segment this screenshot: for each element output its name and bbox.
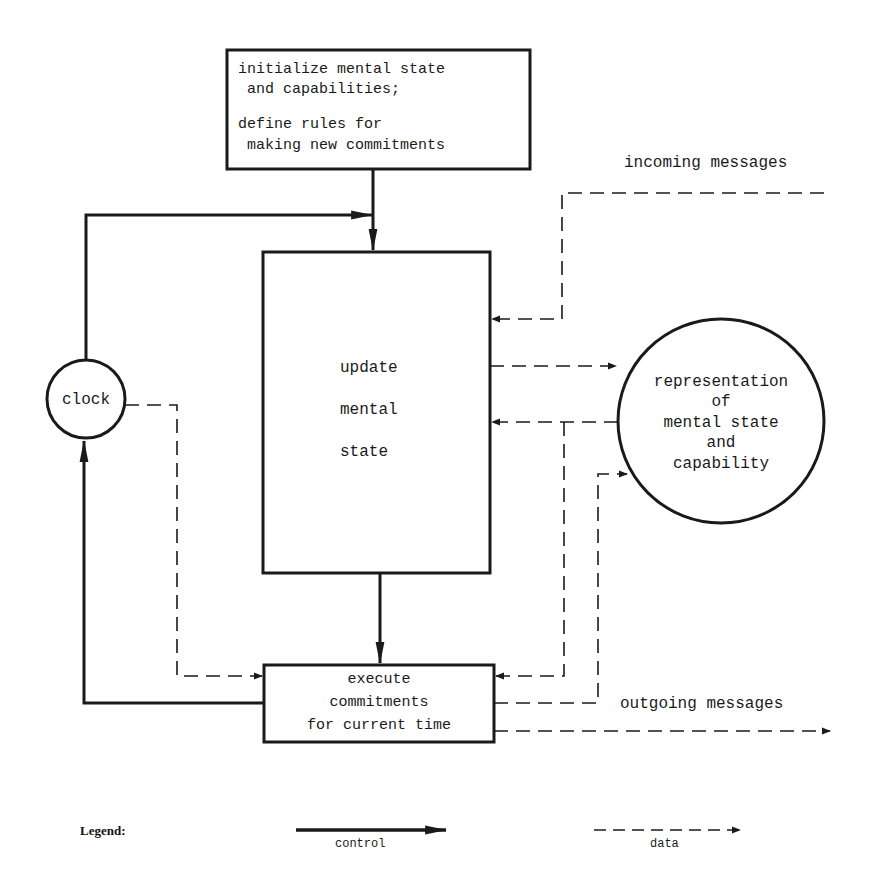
data-arrow-clock-to-execute	[125, 405, 262, 676]
data-arrow-execute-to-representation	[494, 474, 627, 703]
legend-control-label: control	[335, 837, 385, 851]
update-box: update mental state	[263, 252, 490, 573]
incoming-messages-label: incoming messages	[624, 154, 787, 172]
update-line-2: mental	[340, 401, 398, 419]
init-line-4: making new commitments	[238, 137, 445, 154]
execute-line-3: for current time	[307, 717, 451, 734]
data-arrow-representation-to-execute	[496, 422, 564, 676]
init-line-1: initialize mental state	[238, 61, 445, 78]
representation-line-3: mental state	[663, 414, 778, 432]
outgoing-messages-label: outgoing messages	[620, 695, 783, 713]
representation-line-2: of	[711, 393, 730, 411]
execute-line-1: execute	[347, 671, 410, 688]
architecture-diagram: initialize mental state and capabilities…	[0, 0, 869, 892]
legend: Legend: control data	[80, 823, 740, 851]
legend-data-label: data	[650, 837, 679, 851]
clock-node: clock	[47, 360, 125, 438]
execute-line-2: commitments	[329, 694, 428, 711]
update-line-3: state	[340, 443, 388, 461]
init-box: initialize mental state and capabilities…	[227, 50, 530, 169]
init-line-3: define rules for	[238, 116, 382, 133]
execute-box: execute commitments for current time	[264, 665, 494, 742]
update-line-1: update	[340, 359, 398, 377]
control-arrow-execute-to-clock	[84, 441, 264, 703]
representation-line-4: and	[707, 434, 736, 452]
representation-node: representation of mental state and capab…	[618, 319, 824, 523]
init-line-2: and capabilities;	[238, 81, 400, 98]
representation-line-5: capability	[673, 455, 769, 473]
representation-line-1: representation	[654, 373, 788, 391]
clock-label: clock	[62, 391, 110, 409]
data-arrow-incoming-to-update	[492, 193, 824, 319]
legend-title: Legend:	[80, 823, 126, 838]
